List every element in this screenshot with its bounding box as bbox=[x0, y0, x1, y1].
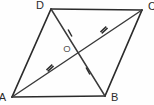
vertex-label-D: D bbox=[36, 0, 44, 11]
geometry-figure: D C B A O bbox=[0, 0, 154, 105]
vertex-label-B: B bbox=[111, 91, 118, 103]
vertex-label-A: A bbox=[0, 91, 7, 103]
center-label-O: O bbox=[63, 43, 70, 54]
parallelogram-diagram: D C B A O bbox=[0, 0, 154, 105]
vertex-label-C: C bbox=[148, 0, 154, 12]
edge-DC bbox=[51, 9, 142, 10]
edge-BA bbox=[12, 96, 105, 97]
